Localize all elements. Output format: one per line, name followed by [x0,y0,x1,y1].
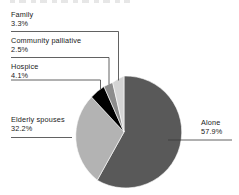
pie-label-alone-value: 57.9% [201,127,222,136]
leader-line-hospice [11,80,101,90]
pie-label-hospice: Hospice 4.1% [11,62,38,81]
pie-label-family: Family 3.3% [11,10,33,29]
pie-label-elderly-spouses: Elderly spouses 32.2% [11,115,65,134]
pie-label-community-palliative: Community palliative 2.5% [11,36,81,55]
pie-label-hospice-value: 4.1% [11,71,38,80]
pie-label-family-name: Family [11,10,33,19]
pie-label-family-value: 3.3% [11,19,33,28]
pie-label-elderly-spouses-name: Elderly spouses [11,115,65,124]
pie-label-community-palliative-value: 2.5% [11,45,81,54]
pie-chart-graphic [0,0,239,195]
pie-label-hospice-name: Hospice [11,62,38,71]
pie-chart-figure: Family 3.3% Community palliative 2.5% Ho… [0,0,239,195]
pie-label-alone-name: Alone [201,118,220,127]
pie-label-elderly-spouses-value: 32.2% [11,124,65,133]
pie-label-alone: Alone 57.9% [201,118,222,137]
pie-label-community-palliative-name: Community palliative [11,36,81,45]
